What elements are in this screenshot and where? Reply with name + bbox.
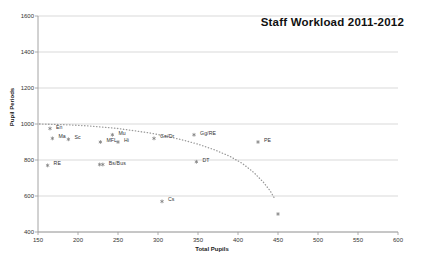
y-tick-label: 1000	[14, 121, 34, 127]
x-tick-label: 450	[273, 237, 283, 243]
chart-container: Staff Workload 2011-2012 Total Pupils Pu…	[0, 0, 424, 262]
data-point-label: RE	[54, 160, 61, 166]
x-tick-label: 600	[393, 237, 403, 243]
data-point-label: Hi	[124, 137, 129, 143]
data-point-label: Sc	[74, 134, 80, 140]
x-tick-label: 150	[33, 237, 43, 243]
x-tick-label: 400	[233, 237, 243, 243]
x-tick-label: 250	[113, 237, 123, 243]
data-point-label: MFL	[106, 137, 117, 143]
x-tick-marks	[35, 16, 398, 235]
y-tick-label: 800	[14, 157, 34, 163]
data-point-label: Ma	[58, 133, 65, 139]
chart-title: Staff Workload 2011-2012	[261, 16, 404, 28]
data-point-label: Mu	[118, 130, 125, 136]
data-markers	[46, 127, 280, 216]
x-axis-title: Total Pupils	[0, 246, 424, 252]
gridlines	[38, 16, 398, 232]
data-point-label: Ge/Dr	[160, 133, 174, 139]
y-tick-label: 600	[14, 193, 34, 199]
y-tick-label: 1200	[14, 85, 34, 91]
y-tick-label: 400	[14, 229, 34, 235]
x-tick-label: 500	[313, 237, 323, 243]
data-point-label: Cs	[168, 196, 175, 202]
x-tick-label: 350	[193, 237, 203, 243]
data-point-label: DT	[202, 157, 209, 163]
x-tick-label: 200	[73, 237, 83, 243]
data-point-label: En	[56, 124, 63, 130]
y-tick-label: 1400	[14, 49, 34, 55]
data-point-label: Bs/Bus	[109, 160, 126, 166]
x-tick-label: 300	[153, 237, 163, 243]
y-tick-label: 1600	[14, 13, 34, 19]
x-tick-label: 550	[353, 237, 363, 243]
data-point-label: Gg/RE	[200, 130, 216, 136]
data-point-label: PE	[264, 137, 271, 143]
